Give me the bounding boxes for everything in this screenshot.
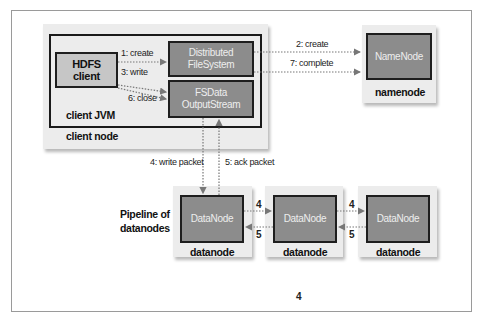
namenode-label: namenode: [375, 86, 425, 98]
datanode-2-label: datanode: [283, 246, 327, 258]
label-ack-packet: 5: ack packet: [225, 157, 274, 167]
label-complete-7: 7: complete: [290, 58, 333, 68]
label-back-2-1: 5: [256, 229, 262, 240]
fsdata-line2: OutputStream: [182, 99, 241, 111]
datanode-2-box: DataNode: [273, 195, 337, 243]
distributed-filesystem-box: Distributed FileSystem: [168, 41, 254, 77]
datanode-1-label: datanode: [190, 246, 234, 258]
distributed-fs-line1: Distributed: [189, 47, 234, 59]
datanode-3-label: datanode: [376, 246, 420, 258]
fsdata-outputstream-box: FSData OutputStream: [168, 80, 254, 118]
label-create-1: 1: create: [121, 48, 153, 58]
hdfs-client-line2: client: [73, 70, 100, 82]
label-create-2: 2: create: [296, 39, 328, 49]
fsdata-line1: FSData: [195, 87, 227, 99]
label-write-3: 3: write: [121, 67, 148, 77]
distributed-fs-line2: FileSystem: [188, 59, 234, 71]
label-write-packet: 4: write packet: [150, 157, 204, 167]
label-back-3-2: 5: [349, 229, 355, 240]
label-fwd-2-3: 4: [349, 199, 355, 210]
page-number: 4: [296, 291, 302, 302]
pipeline-label-line2: datanodes: [120, 222, 170, 234]
datanode-1-box: DataNode: [180, 195, 244, 243]
label-close-6: 6: close: [128, 93, 157, 103]
hdfs-client-box: HDFS client: [55, 52, 118, 88]
client-jvm-label: client JVM: [66, 109, 115, 121]
client-node-label: client node: [66, 130, 118, 142]
hdfs-client-line1: HDFS: [72, 58, 101, 70]
label-fwd-1-2: 4: [256, 199, 262, 210]
namenode-box: NameNode: [366, 33, 432, 80]
pipeline-label-line1: Pipeline of: [120, 208, 170, 220]
datanode-3-box: DataNode: [366, 195, 430, 243]
